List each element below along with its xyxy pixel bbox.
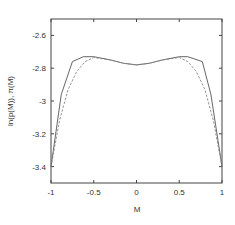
plot-border xyxy=(51,19,222,183)
x-tick-label: 1 xyxy=(220,188,225,197)
data-series xyxy=(51,57,222,167)
x-tick-label: -1 xyxy=(47,188,55,197)
y-tick-label: -3 xyxy=(39,97,47,106)
plot-frame xyxy=(51,19,222,183)
x-axis-label: M xyxy=(134,205,141,214)
chart: -1-0.500.51-2.6-2.8-3-3.2-3.4 M ln(p(M))… xyxy=(0,0,235,225)
y-tick-label: -2.6 xyxy=(32,31,46,40)
x-tick-label: -0.5 xyxy=(87,188,101,197)
y-tick-label: -2.8 xyxy=(32,64,46,73)
y-tick-label: -3.4 xyxy=(32,163,46,172)
x-tick-label: 0.5 xyxy=(174,188,186,197)
y-axis-label: ln(p(M)), π(M) xyxy=(6,76,15,126)
series-line xyxy=(51,57,222,167)
y-tick-label: -3.2 xyxy=(32,130,46,139)
x-tick-label: 0 xyxy=(134,188,139,197)
axis-ticks: -1-0.500.51-2.6-2.8-3-3.2-3.4 xyxy=(32,19,225,197)
series-line xyxy=(51,58,222,167)
